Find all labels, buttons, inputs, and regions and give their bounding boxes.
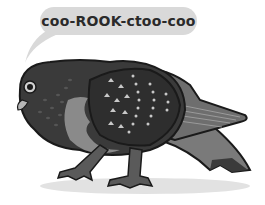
wing [89,69,180,146]
pigeon-illustration: coo-ROOK-ctoo-coo [0,0,265,205]
eye [24,81,36,93]
speech-bubble-text: coo-ROOK-ctoo-coo [40,8,197,34]
